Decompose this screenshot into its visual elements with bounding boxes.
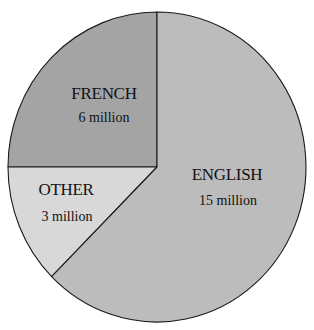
label-english-value: 15 million: [199, 193, 257, 208]
label-other-name: OTHER: [38, 180, 94, 199]
label-french-value: 6 million: [79, 110, 130, 125]
pie-chart: FRENCH 6 million OTHER 3 million ENGLISH…: [0, 0, 314, 330]
label-french-name: FRENCH: [71, 84, 136, 103]
label-english-name: ENGLISH: [192, 165, 263, 184]
label-other-value: 3 million: [42, 209, 93, 224]
